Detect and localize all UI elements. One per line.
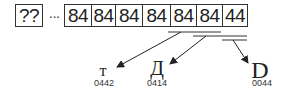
code-0414: 0414 [144,79,170,88]
arrow-to-D [233,40,248,63]
code-0442: 0442 [91,79,117,88]
arrow-to-de [170,36,206,64]
code-0044: 0044 [249,79,275,88]
glyph-te: т [97,63,109,79]
glyph-de: Д [149,58,165,78]
